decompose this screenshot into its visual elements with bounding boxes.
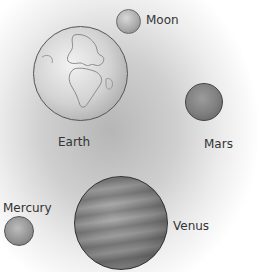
mercury-illustration [4, 216, 34, 246]
earth-illustration [33, 26, 128, 121]
venus-label: Venus [173, 219, 209, 233]
mercury-label: Mercury [3, 201, 52, 215]
venus-illustration [74, 176, 168, 270]
mars-label: Mars [204, 137, 233, 151]
earth-continents-icon [34, 27, 127, 120]
mars-illustration [185, 83, 223, 121]
earth-label: Earth [58, 135, 90, 149]
moon-label: Moon [146, 13, 179, 27]
